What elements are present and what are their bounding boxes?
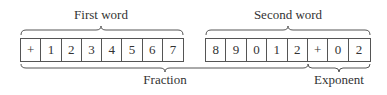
brace-second-word [206,26,370,35]
digit-cell: 1 [41,39,61,61]
digit-cell: 2 [62,39,82,61]
digit-cell: 3 [82,39,102,61]
digit-cell: 6 [143,39,163,61]
digit-cell: 7 [163,39,183,61]
digit-cell: 8 [206,39,226,61]
digit-cell: 9 [226,39,246,61]
digit-cell: + [308,39,328,61]
digit-cell: 5 [122,39,142,61]
brace-exponent [308,64,370,72]
digit-cell: 2 [288,39,308,61]
second-word-label: Second word [254,7,322,23]
digit-cell: 1 [267,39,287,61]
first-word-row: + 1 2 3 4 5 6 7 [20,38,184,62]
digit-cell: 0 [328,39,348,61]
fraction-label: Fraction [143,72,186,88]
brace-fraction [21,64,308,72]
brace-first-word [21,26,183,35]
digit-cell: 4 [102,39,122,61]
digit-cell: + [21,39,41,61]
second-word-row: 8 9 0 1 2 + 0 2 [205,38,371,62]
first-word-label: First word [74,7,128,23]
digit-cell: 0 [247,39,267,61]
digit-cell: 2 [349,39,369,61]
exponent-label: Exponent [314,72,364,88]
